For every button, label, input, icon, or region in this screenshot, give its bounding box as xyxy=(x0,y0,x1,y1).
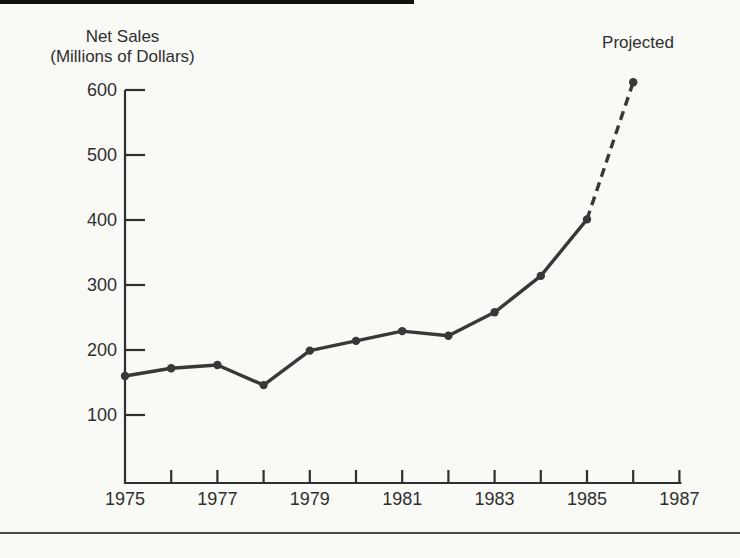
data-point-1976 xyxy=(167,364,175,372)
net-sales-line-projected-dashed xyxy=(587,82,633,219)
net-sales-line-solid xyxy=(125,219,587,385)
data-point-1978 xyxy=(259,381,267,389)
axes xyxy=(125,90,681,483)
data-point-1985 xyxy=(583,215,591,223)
bottom-rule xyxy=(0,532,740,534)
data-point-1980 xyxy=(352,337,360,345)
data-point-1986 xyxy=(629,78,637,86)
data-point-1975 xyxy=(121,372,129,380)
data-point-1983 xyxy=(490,308,498,316)
chart-plot-area xyxy=(0,0,740,558)
scanned-chart-page: Net Sales (Millions of Dollars) Projecte… xyxy=(0,0,740,558)
data-point-1979 xyxy=(306,346,314,354)
data-point-1984 xyxy=(537,272,545,280)
data-point-1977 xyxy=(213,361,221,369)
data-point-1981 xyxy=(398,327,406,335)
data-point-1982 xyxy=(444,332,452,340)
